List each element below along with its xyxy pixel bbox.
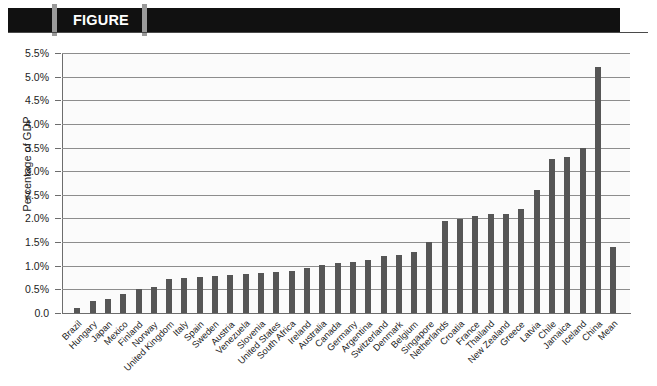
bar [243,274,249,313]
y-axis-tick [55,124,61,125]
bar [610,247,616,313]
y-axis-tick-label: 1.0% [5,261,49,271]
bar [105,299,111,313]
plot-area [62,53,630,313]
bar [534,190,540,313]
bar [488,214,494,313]
bar [411,252,417,313]
bar [381,256,387,313]
y-axis-tick-label: 1.5% [5,237,49,247]
y-axis-tick-label: 2.0% [5,213,49,223]
bar [564,157,570,313]
bar [472,216,478,313]
bar [549,159,555,313]
gridline [62,148,630,149]
bar [74,308,80,313]
gridline [62,100,630,101]
bar [212,276,218,313]
y-axis-tick-label: 3.5% [5,143,49,153]
bar [258,273,264,313]
gridline [62,171,630,172]
y-axis-tick [55,77,61,78]
bar [289,271,295,313]
bar [518,209,524,313]
bar [442,221,448,313]
y-axis-tick [55,171,61,172]
y-axis-tick-label: 2.5% [5,190,49,200]
gridline [62,77,630,78]
bar [197,277,203,313]
figure-page: FIGURE 9.3 INFORMAL INVESTMENT AS A PERC… [0,0,657,386]
y-axis-tick-label: 5.0% [5,72,49,82]
figure-number-label: FIGURE 9.3 [62,11,140,29]
bar [273,272,279,313]
figure-title: INFORMAL INVESTMENT AS A PERCENTAGE OF G… [160,10,550,30]
bar [136,289,142,313]
gridline [62,242,630,243]
bar [365,260,371,313]
bar [304,268,310,313]
gridline [62,289,630,290]
bar [319,265,325,313]
gridline [62,218,630,219]
header-underline [8,32,648,33]
y-axis-tick [55,195,61,196]
y-axis-tick [55,313,61,314]
bar [580,148,586,313]
y-axis-tick [55,289,61,290]
bar [350,262,356,313]
y-axis-tick-label: 3.0% [5,166,49,176]
y-axis-tick-label: 0.5% [5,284,49,294]
bar [151,287,157,313]
y-axis-tick [55,100,61,101]
bar [457,219,463,313]
y-axis-tick [55,218,61,219]
y-axis-tick [55,53,61,54]
gridline [62,266,630,267]
y-axis-tick [55,242,61,243]
figure-header: FIGURE 9.3 INFORMAL INVESTMENT AS A PERC… [0,8,657,34]
gridline [62,124,630,125]
x-axis-labels: BrazilHungaryJapanMexicoFinlandNorwayUni… [62,317,642,386]
bar [227,275,233,313]
bar-chart: Percentage of GDP 5.5%5.0%4.5%4.0%3.5%3.… [0,40,657,386]
bar [90,301,96,313]
bar [503,214,509,313]
y-axis-tick-label: 5.5% [5,48,49,58]
gridline [62,195,630,196]
y-axis-tick-label: 4.0% [5,119,49,129]
y-axis-tick-label: 0.0 [5,308,49,318]
bar [426,242,432,313]
y-axis-tick-label: 4.5% [5,95,49,105]
y-axis-tick [55,266,61,267]
x-axis-line [62,313,631,314]
bar [595,67,601,313]
bar [396,255,402,313]
y-axis-tick [55,148,61,149]
bar [335,263,341,313]
bar [181,278,187,313]
y-axis-line [62,53,63,314]
bar [120,294,126,313]
gridline [62,53,630,54]
bar [166,279,172,313]
